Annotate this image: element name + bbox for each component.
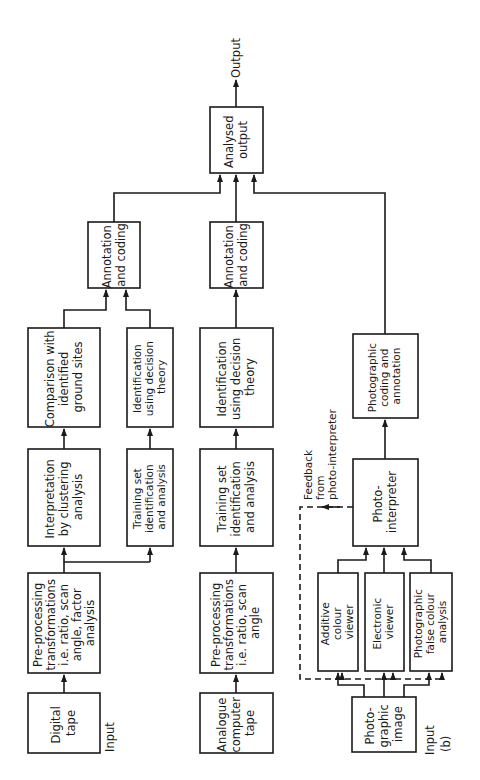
svg-text:Additive colour vi: Additive colour viewer	[319, 599, 355, 645]
node-digital-tape: Digital tape	[28, 693, 100, 753]
arrow	[64, 290, 106, 328]
svg-text:Annotation and coding: Annotation and coding	[222, 222, 250, 289]
feedback-label: Feedback from photo-interpreter	[302, 408, 338, 500]
input-label-digital: Input	[103, 722, 117, 752]
svg-text:Annotation and coding: Annotation and coding	[100, 222, 128, 289]
connector	[64, 562, 150, 573]
svg-text:Training set identificat: Training set identification and analysis	[131, 461, 167, 533]
node-preproc-digital: Pre-processing transformations i.e. rati…	[28, 573, 100, 673]
arrow	[126, 290, 150, 328]
node-additive-viewer: Additive colour viewer	[318, 573, 358, 671]
node-comparison-ground: Comparison with identified ground sites	[28, 327, 100, 428]
node-false-colour: Photographic false colour analysis	[410, 573, 452, 671]
node-annotation-1: Annotation and coding	[88, 222, 140, 289]
input-label-photographic: Input	[423, 725, 437, 755]
svg-text:Photographic coding and: Photographic coding and annotation	[366, 340, 402, 413]
text: Digital	[49, 706, 63, 743]
node-identification-1: Identification using decision theory	[127, 328, 173, 427]
node-photographic-image: Photo- graphic image	[352, 697, 416, 752]
node-photo-coding: Photographic coding and annotation	[353, 334, 418, 418]
node-electronic-viewer: Electronic viewer	[365, 573, 404, 671]
arrow	[338, 548, 366, 573]
node-training-set-2: Training set identification and analysis	[200, 449, 273, 546]
arrow	[404, 673, 429, 697]
node-interpretation-clustering: Interpretation by clustering analysis	[28, 449, 100, 546]
node-training-set-1: Training set identification and analysis	[127, 449, 173, 546]
figure-label: (b)	[439, 736, 453, 752]
output-label: Output	[229, 38, 243, 78]
svg-text:Training set identificat: Training set identification and analysis	[215, 458, 257, 537]
node-photo-interpreter: Photo- interpreter	[353, 459, 418, 546]
arrow	[404, 548, 431, 573]
node-annotation-2: Annotation and coding	[210, 222, 263, 289]
arrow	[254, 175, 385, 334]
flow-diagram: Digital tape Input Pre-processing transf…	[0, 0, 480, 780]
arrow	[114, 175, 220, 222]
node-analogue-tape: Analogue computer tape	[200, 693, 273, 753]
node-identification-2: Identification using decision theory	[200, 328, 273, 427]
svg-text:Photo- graphic ima: Photo- graphic image	[363, 701, 405, 748]
node-analysed-output: Analysed output	[210, 107, 263, 173]
node-preproc-analogue: Pre-processing transformations i.e. rati…	[200, 573, 273, 673]
